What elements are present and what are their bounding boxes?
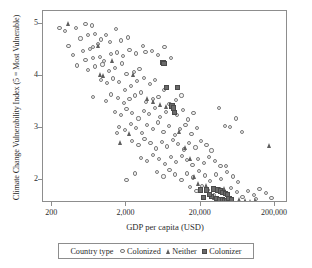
data-point-colonized xyxy=(133,171,137,175)
data-point-colonized xyxy=(104,33,108,37)
data-point-neither xyxy=(66,21,70,26)
y-tick-mark xyxy=(38,23,42,24)
data-point-neither xyxy=(196,181,200,186)
data-point-colonized xyxy=(257,187,261,191)
data-point-colonizer xyxy=(198,187,203,192)
data-point-colonized xyxy=(156,95,160,99)
data-point-colonizer xyxy=(164,85,169,90)
data-point-colonized xyxy=(63,29,67,33)
data-point-colonized xyxy=(176,142,180,146)
data-point-colonized xyxy=(121,54,125,58)
y-tick-label: 3 xyxy=(22,123,38,131)
data-point-colonized xyxy=(151,127,155,131)
data-point-colonized xyxy=(161,174,165,178)
data-point-neither xyxy=(267,143,271,148)
data-point-colonized xyxy=(202,161,206,165)
data-point-colonized xyxy=(98,55,102,59)
data-point-colonized xyxy=(91,95,95,99)
data-point-colonized xyxy=(123,88,127,92)
data-point-colonized xyxy=(183,123,187,127)
data-point-colonized xyxy=(179,93,183,97)
data-point-colonized xyxy=(133,93,137,97)
data-point-colonized xyxy=(130,139,134,143)
data-point-colonized xyxy=(143,50,147,54)
data-point-colonized xyxy=(160,140,164,144)
data-point-colonizer xyxy=(172,110,177,115)
data-point-colonized xyxy=(214,172,218,176)
data-point-colonized xyxy=(124,72,128,76)
data-point-colonized xyxy=(193,145,197,149)
data-point-colonized xyxy=(203,173,207,177)
data-point-colonized xyxy=(145,123,149,127)
data-point-colonized xyxy=(145,159,149,163)
data-point-colonized xyxy=(269,196,273,200)
x-axis-ticks: 2002,00020,000200,000 xyxy=(42,202,287,203)
data-point-colonized xyxy=(167,124,171,128)
data-point-colonized xyxy=(99,37,103,41)
data-point-colonized xyxy=(71,53,75,57)
legend-item-colonizer[interactable]: Colonizer xyxy=(202,247,242,256)
data-point-colonized xyxy=(223,124,227,128)
data-point-colonized xyxy=(57,26,61,30)
data-point-colonized xyxy=(134,51,138,55)
data-point-colonized xyxy=(169,56,173,60)
data-point-colonized xyxy=(127,48,131,52)
data-point-colonized xyxy=(156,120,160,124)
square-marker-icon xyxy=(202,249,207,254)
data-point-colonized xyxy=(187,141,191,145)
data-point-colonized xyxy=(104,99,108,103)
data-point-colonized xyxy=(93,32,97,36)
data-point-colonized xyxy=(163,162,167,166)
data-point-colonized xyxy=(218,164,222,168)
data-point-colonized xyxy=(189,132,193,136)
scatter-plot-figure: Climate Change Vulnerability Index (5 = … xyxy=(0,0,312,268)
data-point-colonized xyxy=(130,111,134,115)
y-tick-label: 2 xyxy=(22,175,38,183)
data-point-colonized xyxy=(115,50,119,54)
data-point-colonizer xyxy=(161,61,166,66)
data-point-colonized xyxy=(142,76,146,80)
data-point-colonized xyxy=(246,189,250,193)
data-point-colonized xyxy=(156,53,160,57)
data-point-colonized xyxy=(153,106,157,110)
data-point-colonized xyxy=(119,38,123,42)
data-point-colonized xyxy=(234,116,238,120)
legend-item-neither[interactable]: Neither xyxy=(166,247,197,256)
data-point-colonized xyxy=(111,76,115,80)
data-point-colonized xyxy=(174,160,178,164)
data-point-colonized xyxy=(204,143,208,147)
data-point-colonized xyxy=(153,78,157,82)
legend-label-colonized: Colonized xyxy=(127,247,161,256)
data-point-colonized xyxy=(109,92,113,96)
data-point-colonized xyxy=(105,81,109,85)
data-point-colonized xyxy=(179,178,183,182)
data-point-neither xyxy=(177,129,181,134)
data-point-colonized xyxy=(83,22,87,26)
data-point-colonized xyxy=(154,146,158,150)
legend-item-colonized[interactable]: Colonized xyxy=(120,247,160,256)
data-point-colonized xyxy=(140,131,144,135)
data-point-colonized xyxy=(114,27,118,31)
data-point-colonized xyxy=(196,157,200,161)
legend: Country type Colonized Neither Colonizer xyxy=(58,243,254,259)
legend-label-neither: Neither xyxy=(172,247,197,256)
data-point-colonized xyxy=(155,170,159,174)
y-axis-tick-labels: 2345 xyxy=(20,10,38,202)
x-tick-mark xyxy=(274,202,275,206)
data-point-colonized xyxy=(126,35,130,39)
data-point-colonized xyxy=(129,84,133,88)
data-point-neither xyxy=(188,156,192,161)
y-tick-mark xyxy=(38,75,42,76)
data-point-colonized xyxy=(134,126,138,130)
data-point-colonized xyxy=(74,26,78,30)
data-point-neither xyxy=(101,73,105,78)
triangle-marker-icon xyxy=(166,249,170,254)
x-tick-mark xyxy=(200,202,201,206)
plot-area xyxy=(42,10,287,202)
data-point-colonized xyxy=(107,69,111,73)
data-point-colonized xyxy=(173,172,177,176)
x-tick-label: 20,000 xyxy=(170,208,230,217)
data-point-neither xyxy=(158,102,162,107)
data-point-colonized xyxy=(161,130,165,134)
data-point-colonized xyxy=(151,153,155,157)
